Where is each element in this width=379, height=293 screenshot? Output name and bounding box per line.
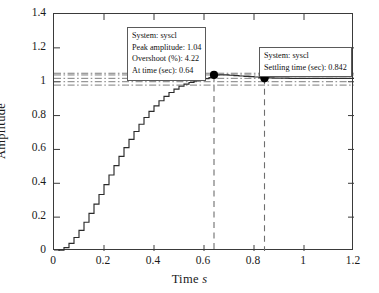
peak-overshoot-label: Overshoot (%): 4.22 [132, 53, 201, 65]
x-tick-label-0.6: 0.6 [196, 255, 210, 267]
settling-time-label: Settling time (sec): 0.842 [264, 62, 347, 74]
step-response-curve [54, 75, 354, 251]
x-tick-label-0.8: 0.8 [246, 255, 260, 267]
x-tick-label-1.2: 1.2 [346, 255, 360, 267]
y-tick-label-0.4: 0.4 [18, 177, 46, 189]
y-tick-label-1.2: 1.2 [18, 41, 46, 53]
x-axis-label: Time s [0, 272, 379, 287]
step-response-figure: 0 0.2 0.4 0.6 0.8 1 1.2 1.4 0 0.2 0.4 0.… [0, 0, 379, 293]
peak-time-label: At time (sec): 0.64 [132, 65, 201, 77]
x-axis-label-text: Time [172, 272, 199, 286]
y-tick-label-0.8: 0.8 [18, 109, 46, 121]
y-tick-label-0: 0 [18, 244, 46, 256]
y-tick-label-1: 1 [18, 75, 46, 87]
peak-system-label: System: syscl [132, 30, 201, 42]
y-axis-label: Amplitude [0, 103, 9, 159]
peak-marker [210, 71, 218, 79]
x-tick-label-0.2: 0.2 [96, 255, 110, 267]
y-tick-label-0.2: 0.2 [18, 210, 46, 222]
x-tick-label-1: 1 [300, 255, 306, 267]
x-tick-label-0: 0 [50, 255, 56, 267]
y-tick-label-1.4: 1.4 [18, 7, 46, 19]
vertical-marker-lines [214, 75, 265, 251]
peak-annotation-box[interactable]: System: syscl Peak amplitude: 1.04 Overs… [127, 27, 206, 81]
x-tick-label-0.4: 0.4 [146, 255, 160, 267]
peak-amplitude-label: Peak amplitude: 1.04 [132, 42, 201, 54]
x-axis-label-variable: s [202, 272, 207, 286]
settling-system-label: System: syscl [264, 50, 347, 62]
y-tick-label-0.6: 0.6 [18, 143, 46, 155]
settling-annotation-box[interactable]: System: syscl Settling time (sec): 0.842 [259, 47, 352, 77]
